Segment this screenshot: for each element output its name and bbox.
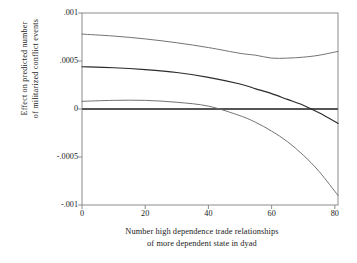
x-axis-title-line-1: Number high dependence trade relationshi… — [52, 226, 352, 238]
x-tick-label: 0 — [67, 210, 97, 218]
x-tick-label: 80 — [320, 210, 350, 218]
x-tick-label: 40 — [193, 210, 223, 218]
x-tick-label: 20 — [130, 210, 160, 218]
x-axis-title-line-2: of more dependent state in dyad — [52, 238, 352, 250]
x-axis-title: Number high dependence trade relationshi… — [52, 226, 352, 249]
x-tick-label: 60 — [257, 210, 287, 218]
chart-figure: Effect on predicted number of militarize… — [0, 0, 357, 263]
x-axis-tick-labels: 020406080 — [0, 0, 357, 263]
